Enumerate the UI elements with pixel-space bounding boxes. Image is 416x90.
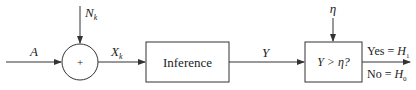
detection-block-diagram: A Nk + Xk Inference Y η Y > η? Yes = H1 … xyxy=(0,0,416,90)
threshold-label: η xyxy=(330,1,336,16)
output-label: Y xyxy=(262,45,271,60)
sum-label: Xk xyxy=(110,44,123,61)
input-label: A xyxy=(29,44,38,59)
adder-plus-icon: + xyxy=(77,56,83,68)
noise-label: Nk xyxy=(84,5,98,22)
no-label: No = H0 xyxy=(367,67,407,83)
inference-label: Inference xyxy=(163,55,212,70)
yes-label: Yes = H1 xyxy=(367,44,410,60)
decision-label: Y > η? xyxy=(317,55,350,69)
